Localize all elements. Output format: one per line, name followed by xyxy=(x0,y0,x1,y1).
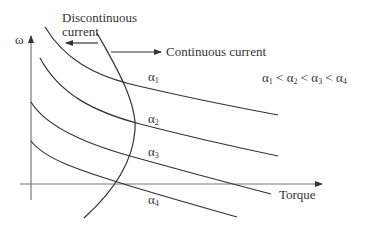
alpha-4-label: α4 xyxy=(148,193,159,208)
ineq-alpha: α xyxy=(262,70,269,85)
curve-alpha-1 xyxy=(45,27,278,115)
ineq-lt: < xyxy=(297,70,311,85)
discontinuous-label-line1: Discontinuous xyxy=(62,11,137,24)
curve-alpha-4 xyxy=(31,141,237,217)
alpha-symbol: α xyxy=(148,192,155,207)
curve-alpha-2 xyxy=(40,58,278,156)
alpha-symbol: α xyxy=(148,69,155,84)
y-axis-label: ω xyxy=(15,33,24,46)
alpha-2-label: α2 xyxy=(148,112,159,127)
alpha-symbol: α xyxy=(148,144,155,159)
alpha-subscript: 1 xyxy=(155,76,159,85)
alpha-symbol: α xyxy=(148,111,155,126)
x-axis-label: Torque xyxy=(279,188,316,201)
alpha-1-label: α1 xyxy=(148,70,159,85)
boundary-curve xyxy=(84,33,135,218)
alpha-subscript: 2 xyxy=(155,118,159,127)
ineq-lt: < xyxy=(273,70,287,85)
ineq-alpha: α xyxy=(336,70,343,85)
ineq-sub: 4 xyxy=(343,77,347,86)
alpha-inequality: α1 < α2 < α3 < α4 xyxy=(262,71,347,86)
ineq-lt: < xyxy=(322,70,336,85)
alpha-subscript: 3 xyxy=(155,151,159,160)
continuous-label: Continuous current xyxy=(166,45,266,58)
alpha-subscript: 4 xyxy=(155,199,159,208)
discontinuous-label-line2: current xyxy=(62,25,99,38)
alpha-3-label: α3 xyxy=(148,145,159,160)
